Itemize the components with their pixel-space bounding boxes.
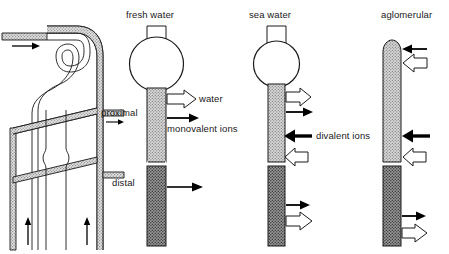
aglomerular-mid-open-arrow [403,148,426,166]
nephron-loop-tubule [32,33,90,250]
label-divalent-ions: divalent ions [316,131,370,141]
label-fresh-water: fresh water [126,10,174,20]
panel-aglomerular [383,40,430,246]
nephron-inflow-duct [2,33,47,40]
figure-root: fresh water sea water aglomerular proxim… [0,0,449,254]
fresh-water-distal-arrow [167,183,203,192]
nephron-left-duct [10,128,16,250]
nephron-diagonal-lower [13,157,97,183]
aglomerular-top-open-arrow [403,54,427,72]
label-water: water [199,94,223,104]
sea-water-secretion-arrow [285,148,308,166]
nephron-upflow-arrow-left [25,217,31,245]
nephron-collecting-duct [47,26,103,250]
sea-water-distal-solid-arrow [286,201,310,210]
aglomerular-top-solid-arrow [402,45,427,54]
label-aglomerular: aglomerular [381,10,432,20]
sea-water-glomerulus [254,41,300,87]
panel-nephron-detail [2,26,124,250]
panel-fresh-water [130,26,204,246]
sea-water-water-arrow [286,88,311,106]
nephron-inflow-arrow [12,43,40,50]
label-sea-water: sea water [249,10,291,20]
fresh-water-monovalent-arrow [167,114,199,123]
nephron-inner-tubules [43,110,69,250]
fresh-water-proximal-segment [147,88,166,162]
label-distal: distal [112,178,135,188]
aglomerular-distal-open-arrow [402,224,427,242]
fresh-water-water-arrow [167,90,196,108]
aglomerular-proximal-segment [383,40,401,162]
nephron-upflow-arrow-right [84,217,90,245]
fresh-water-distal-segment [147,166,166,246]
aglomerular-divalent-arrow [402,130,430,143]
sea-water-proximal-segment [268,84,285,162]
label-proximal: proximal [101,108,138,118]
fresh-water-glomerulus [130,37,184,91]
sea-water-monovalent-arrow [286,108,313,117]
panel-sea-water [254,26,314,246]
aglomerular-distal-segment [383,166,401,246]
sea-water-distal-open-arrow [286,212,312,230]
aglomerular-distal-solid-arrow [402,212,426,221]
sea-water-divalent-arrow [284,130,312,143]
nephron-diagonal-upper [13,108,97,134]
sea-water-distal-segment [268,166,285,246]
label-monovalent-ions: monovalent ions [167,124,238,134]
